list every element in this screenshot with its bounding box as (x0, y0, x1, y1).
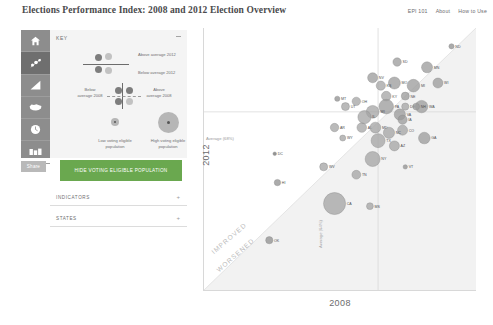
key-2008-swatches (107, 83, 141, 109)
data-point-label: DC (278, 152, 284, 156)
bubble[interactable] (341, 103, 349, 111)
nav-link-about[interactable]: About (436, 8, 451, 14)
bubble[interactable] (274, 179, 280, 185)
share-button[interactable]: Share (21, 161, 46, 172)
home-icon (30, 36, 41, 46)
hide-voting-eligible-population-button[interactable]: HIDE VOTING ELIGIBLE POPULATION (60, 160, 182, 181)
accordion-indicators-label: INDICATORS (56, 195, 90, 200)
plus-icon-states[interactable]: + (176, 215, 180, 221)
data-point-nd[interactable]: ND (449, 44, 461, 49)
data-point-label: MS (375, 205, 381, 209)
data-point-dc[interactable]: DC (273, 152, 283, 156)
bubble[interactable] (422, 62, 433, 73)
bubble[interactable] (449, 44, 454, 49)
bubble[interactable] (367, 203, 374, 210)
key-dashed-line (107, 96, 141, 97)
data-point-label: WA (429, 105, 435, 109)
bubble[interactable] (266, 237, 273, 244)
data-point-label: NH (421, 105, 427, 109)
data-point-label: GA (431, 136, 437, 140)
epi-dashboard: Elections Performance Index: 2008 and 20… (0, 0, 493, 325)
data-point-label: NE (410, 95, 416, 99)
key-dot-below-2012-dark (95, 66, 102, 73)
data-point-label: TN (362, 173, 367, 177)
key-label-above-2012: Above average 2012 (138, 52, 176, 57)
key-label-below-2012: Below average 2012 (138, 70, 175, 75)
bubble[interactable] (370, 122, 381, 133)
nav-link-how-to-use[interactable]: How to Use (458, 8, 487, 14)
data-point-ar[interactable]: AR (330, 123, 345, 131)
key-panel: KEY Above average 2012 Below average 201… (50, 30, 187, 158)
bubble[interactable] (340, 135, 346, 141)
key-label-above-2008: Above average 2008 (146, 87, 172, 99)
data-point-label: NC (396, 131, 402, 135)
data-point-label: WI (444, 81, 448, 85)
data-point-label: VT (409, 165, 414, 169)
accordion-states-label: STATES (56, 216, 77, 221)
data-point-label: WY (347, 136, 353, 140)
data-point-label: IL (372, 115, 375, 119)
bubble[interactable] (320, 163, 328, 171)
bubble[interactable] (393, 58, 401, 66)
data-point-label: WV (329, 165, 335, 169)
data-point-wy[interactable]: WY (340, 135, 354, 141)
bubble[interactable] (401, 92, 409, 100)
data-point-hi[interactable]: HI (274, 179, 285, 185)
data-point-label: OK (274, 239, 280, 243)
bubble[interactable] (419, 132, 431, 144)
nav-link-epi-101[interactable]: EPI 101 (408, 8, 428, 14)
bubble[interactable] (403, 165, 407, 169)
bubble[interactable] (407, 79, 420, 92)
key-dot-above-2008-dark (126, 87, 133, 94)
data-point-mt[interactable]: MT (335, 96, 347, 101)
bubble[interactable] (352, 170, 361, 179)
data-point-label: SD (403, 60, 408, 64)
data-point-label: MO (402, 81, 408, 85)
bubble[interactable] (365, 152, 380, 167)
bubble[interactable] (324, 193, 346, 215)
bubble[interactable] (330, 123, 338, 131)
plus-icon-indicators[interactable]: + (176, 194, 180, 200)
bubble[interactable] (358, 110, 371, 123)
data-point-label: ND (455, 45, 461, 49)
data-point-label: NY (381, 157, 387, 161)
data-point-label: IA (408, 118, 412, 122)
key-2012-swatches (83, 49, 129, 79)
top-navigation: EPI 101 About How to Use (408, 8, 487, 14)
average-y-label: Average (68%) (206, 136, 234, 141)
bubble[interactable] (413, 103, 420, 110)
rail-item-home[interactable] (21, 30, 50, 52)
rail-item-bar-chart[interactable] (21, 75, 50, 97)
rail-item-timeline[interactable] (21, 119, 50, 141)
key-dot-above-2012-light (105, 53, 112, 60)
bubble[interactable] (383, 127, 394, 138)
bubble[interactable] (398, 115, 407, 124)
minus-icon[interactable] (176, 35, 181, 41)
bubble[interactable] (335, 96, 340, 101)
bubble[interactable] (368, 73, 378, 83)
bubble[interactable] (376, 81, 385, 90)
accordion-states[interactable]: STATES + (50, 211, 187, 227)
rail-item-map[interactable] (21, 97, 50, 119)
rail-item-scatter[interactable] (21, 52, 50, 74)
bubble[interactable] (371, 134, 385, 148)
bubble[interactable] (357, 123, 367, 133)
data-point-ky[interactable]: KY (381, 91, 397, 101)
key-label-high-vep: High voting eligible population (146, 138, 190, 150)
data-point-sd[interactable]: SD (393, 58, 408, 66)
data-point-label: OH (362, 100, 368, 104)
bubble[interactable] (433, 78, 443, 88)
x-axis-title: 2008 (305, 298, 375, 308)
bubble[interactable] (389, 141, 399, 151)
key-bubble-small (111, 118, 119, 126)
data-point-label: KS (387, 84, 392, 88)
key-title: KEY (56, 35, 68, 41)
key-dot-below-2008-dark-2 (115, 98, 122, 105)
key-dot-above-2008-light (126, 98, 133, 105)
data-point-vt[interactable]: VT (403, 165, 414, 170)
app-header: Elections Performance Index: 2008 and 20… (0, 0, 493, 22)
scatter-chart-icon (30, 58, 42, 68)
bubble[interactable] (273, 152, 277, 156)
accordion-indicators[interactable]: INDICATORS + (50, 190, 187, 206)
bubble[interactable] (402, 103, 409, 110)
